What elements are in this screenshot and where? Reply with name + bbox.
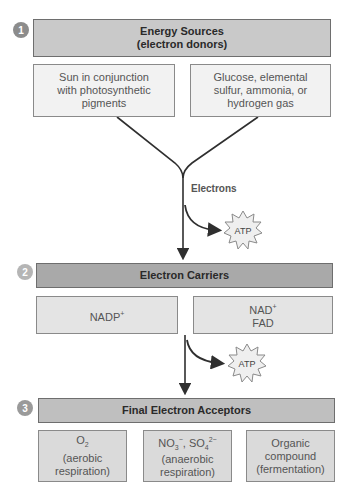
text-line: pigments [57, 97, 151, 110]
electron-carriers-header: Electron Carriers [36, 263, 333, 288]
text-line: Glucose, elemental [213, 71, 307, 84]
formula: SO [189, 436, 205, 448]
text-line: (aerobic [55, 452, 110, 465]
atp-label-2: ATP [239, 359, 256, 369]
nad-text: NAD [249, 304, 272, 316]
step-badge-1: 1 [13, 22, 29, 38]
energy-sources-subtitle: (electron donors) [137, 38, 227, 51]
fad-text: FAD [249, 317, 276, 330]
text-line: Organic [256, 437, 324, 450]
text-line: respiration) [55, 465, 110, 478]
final-electron-acceptors-header: Final Electron Acceptors [38, 398, 335, 423]
step-badge-3: 3 [17, 400, 33, 416]
formula: O [76, 434, 85, 446]
atp-label-1: ATP [235, 226, 252, 236]
acceptor-oxygen-box: O2 (aerobic respiration) [38, 430, 127, 482]
subscript: 4 [205, 443, 209, 450]
superscript: 2− [209, 436, 217, 443]
atp-burst-icon: ATP [228, 344, 266, 382]
text-line: respiration) [158, 466, 216, 479]
text-line: sulfur, ammonia, or [213, 84, 307, 97]
energy-sources-title: Energy Sources [137, 25, 227, 38]
superscript: + [273, 303, 277, 310]
atp-burst-icon: ATP [224, 211, 262, 249]
text-line: compound [256, 450, 324, 463]
acceptor-organic-box: Organic compound (fermentation) [246, 430, 335, 482]
energy-source-chemical-box: Glucose, elemental sulfur, ammonia, or h… [190, 64, 331, 117]
final-electron-acceptors-title: Final Electron Acceptors [122, 404, 251, 417]
step-badge-2: 2 [17, 264, 33, 280]
electron-carriers-title: Electron Carriers [140, 269, 229, 282]
nadp-text: NADP [90, 310, 121, 322]
subscript: 2 [85, 442, 89, 449]
subscript: 3 [175, 443, 179, 450]
energy-sources-header: Energy Sources (electron donors) [33, 19, 331, 57]
nad-fad-box: NAD+ FAD [193, 296, 333, 334]
formula: NO [158, 436, 175, 448]
acceptor-nitrate-sulfate-box: NO3−, SO42− (anaerobic respiration) [143, 430, 232, 482]
text-line: Sun in conjunction [57, 71, 151, 84]
text-line: with photosynthetic [57, 84, 151, 97]
nadp-box: NADP+ [36, 296, 178, 334]
text-line: (anaerobic [158, 453, 216, 466]
superscript: + [120, 310, 124, 317]
text-line: hydrogen gas [213, 97, 307, 110]
text-line: (fermentation) [256, 463, 324, 476]
electrons-label: Electrons [191, 183, 237, 194]
energy-source-sun-box: Sun in conjunction with photosynthetic p… [33, 64, 175, 117]
